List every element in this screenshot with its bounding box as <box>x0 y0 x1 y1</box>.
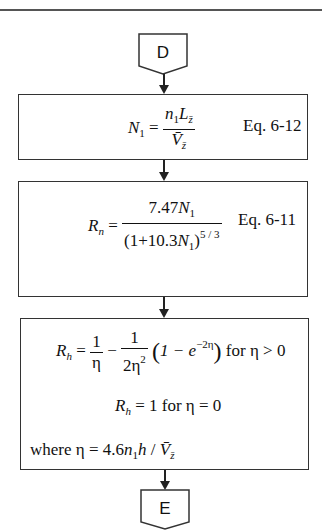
connector-label-d: D <box>139 43 187 63</box>
arrowhead-icon <box>159 309 169 318</box>
arrowhead-icon <box>159 172 169 181</box>
equation-n1: N1 = n1Lz̄ V̄z̄ <box>128 104 195 155</box>
top-rule <box>0 9 322 11</box>
equation-rh-zero: Rh = 1 for η = 0 <box>115 396 221 417</box>
equation-rh-positive: Rh = 1η − 12η2 (1 − e−2η) for η > 0 <box>56 328 285 376</box>
equation-rn: Rn = 7.47N1 (1+10.3N1)5 / 3 <box>88 198 222 256</box>
equation-label-6-11: Eq. 6-11 <box>238 210 296 230</box>
arrowhead-icon <box>159 85 169 94</box>
equation-eta-definition: where η = 4.6n1h / V̄z̄ <box>30 440 174 461</box>
connector-label-e: E <box>141 499 189 519</box>
equation-label-6-12: Eq. 6-12 <box>243 116 302 136</box>
